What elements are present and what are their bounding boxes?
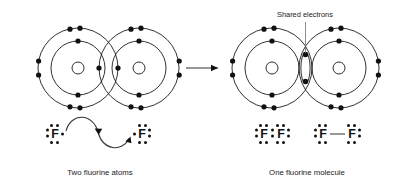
outer-shell-electron [376,58,381,63]
lone-pair-dot [282,141,285,144]
lewis-fluorine-right: F [133,124,151,144]
inner-shell-electron [269,38,274,43]
lewis-structures-right: F F F F [255,124,361,144]
lewis-symbol: F [260,127,268,141]
inner-shell-ring [245,41,299,95]
shared-pair-dot [271,135,274,138]
right-caption: One fluorine molecule [269,168,345,177]
lewis-symbol: F [277,127,285,141]
reaction-arrow [186,65,218,71]
lewis-symbol: F [138,127,146,141]
outer-shell-electron [138,105,143,110]
outer-shell-electron [271,26,276,31]
nucleus [333,62,345,74]
lone-pair-dot [287,135,290,138]
lone-pair-dot [259,141,262,144]
lone-pair-dot [46,135,49,138]
outer-shell-electron [67,27,72,32]
molecule-fluorine-atom-right [299,26,381,111]
nucleus [266,62,278,74]
outer-shell-electron [67,104,72,109]
lone-pair-dot [138,124,141,127]
unpaired-electron-dot [133,133,136,136]
inner-shell-electron [75,38,80,43]
lone-pair-dot [324,124,327,127]
electron-pairing-arrow [66,117,131,147]
outer-shell-electron [328,104,333,109]
outer-shell-electron [338,26,343,31]
inner-shell-electron [75,92,80,97]
inner-shell-ring [312,41,366,95]
outer-shell-electron-unpaired [96,65,101,70]
outer-shell-electron [177,58,182,63]
fluorine-atom-left [36,26,121,111]
lone-pair-dot [318,141,321,144]
shared-pair-dot [271,129,274,132]
lewis-fluorine-left: F [46,124,64,144]
shared-electrons-label: Shared electrons [277,10,333,19]
left-caption: Two fluorine atoms [67,168,133,177]
inner-shell-electron [269,92,274,97]
lone-pair-dot [353,124,356,127]
lone-pair-dot [276,141,279,144]
lone-pair-dot [50,124,53,127]
outer-shell-electron-unpaired [115,65,120,70]
lone-pair-dot [318,124,321,127]
outer-shell-electron [271,105,276,110]
lone-pair-dot [347,141,350,144]
lone-pair-dot [358,129,361,132]
lone-pair-dot [265,141,268,144]
outer-shell-electron [177,72,182,77]
lone-pair-dot [255,135,258,138]
outer-shell-electron [77,105,82,110]
outer-shell-electron [230,58,235,63]
lone-pair-dot [276,124,279,127]
shared-electron [303,79,309,85]
outer-shell-electron [36,58,41,63]
pairing-arrow-head-mid [95,128,103,134]
lewis-f2-dot: F F [255,124,290,144]
fluorine-atom-right [96,26,181,111]
lewis-symbol: F [51,127,59,141]
outer-shell-electron [128,27,133,32]
inner-shell-electron [336,92,341,97]
lone-pair-dot [347,124,350,127]
lone-pair-dot [314,135,317,138]
lone-pair-dot [148,135,151,138]
lone-pair-dot [358,135,361,138]
two-fluorine-atoms-group [36,26,182,111]
lewis-symbol: F [319,127,327,141]
unpaired-electron-dot [61,133,64,136]
lone-pair-dot [255,129,258,132]
outer-shell-electron [230,72,235,77]
lone-pair-dot [353,141,356,144]
reaction-arrow-head [211,65,218,71]
lone-pair-dot [56,124,59,127]
one-fluorine-molecule-group: Shared electrons [230,10,381,110]
inner-shell-electron [136,38,141,43]
outer-shell-electron [36,72,41,77]
inner-shell-electron [336,38,341,43]
lewis-symbol: F [348,127,356,141]
nucleus [72,62,84,74]
lone-pair-dot [144,124,147,127]
outer-shell-electron [138,26,143,31]
nucleus [133,62,145,74]
outer-shell-electron [128,104,133,109]
molecule-fluorine-atom-left [230,26,312,111]
inner-shell-electron [136,92,141,97]
lone-pair-dot [46,129,49,132]
lone-pair-dot [282,124,285,127]
outer-shell-electron [338,105,343,110]
outer-shell-electron [328,27,333,32]
lewis-structures-left: F F [46,117,151,147]
lewis-f2-line: F F [314,124,361,144]
lone-pair-dot [314,129,317,132]
lone-pair-dot [287,129,290,132]
lone-pair-dot [259,124,262,127]
outer-shell-electron [261,27,266,32]
shared-electron-overlap [301,52,310,85]
lone-pair-dot [144,141,147,144]
lone-pair-dot [56,141,59,144]
lone-pair-dot [138,141,141,144]
